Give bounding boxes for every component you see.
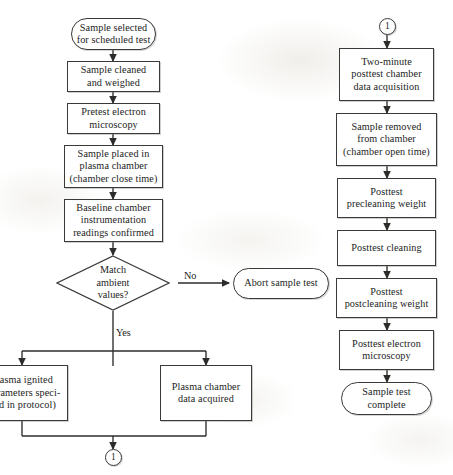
flowchart-canvas: Sample selected for scheduled test Sampl… xyxy=(0,0,453,475)
node-plasma-ignited[interactable]: Plasma ignited (parameters speci- fied i… xyxy=(0,365,68,421)
node-abort-sample-test-label: Abort sample test xyxy=(244,277,318,289)
node-connector-out[interactable]: 1 xyxy=(105,449,122,466)
node-start-label: Sample selected for scheduled test xyxy=(77,22,151,47)
node-pretest-electron-microscopy-label: Pretest electron microscopy xyxy=(81,106,146,131)
node-baseline-readings[interactable]: Baseline chamber instrumentation reading… xyxy=(64,199,163,242)
node-sample-placed[interactable]: Sample placed in plasma chamber (chamber… xyxy=(64,145,163,188)
node-posttest-cleaning[interactable]: Posttest cleaning xyxy=(337,230,436,266)
node-sample-cleaned[interactable]: Sample cleaned and weighed xyxy=(67,61,160,92)
node-sample-cleaned-label: Sample cleaned and weighed xyxy=(81,64,147,89)
node-posttest-cleaning-label: Posttest cleaning xyxy=(351,242,421,254)
node-plasma-chamber-data[interactable]: Plasma chamber data acquired xyxy=(160,365,252,421)
edge-label-no-text: No xyxy=(184,270,196,281)
node-sample-test-complete[interactable]: Sample test complete xyxy=(341,382,432,415)
node-match-ambient-label: Match ambient values? xyxy=(97,264,130,301)
node-posttest-precleaning-weight-label: Posttest precleaning weight xyxy=(347,186,427,211)
node-posttest-postcleaning-weight[interactable]: Posttest postcleaning weight xyxy=(336,278,437,318)
edge-label-yes: Yes xyxy=(116,327,131,338)
node-pretest-electron-microscopy[interactable]: Pretest electron microscopy xyxy=(67,103,160,134)
node-posttest-postcleaning-weight-label: Posttest postcleaning weight xyxy=(345,286,429,311)
node-sample-removed-label: Sample removed from chamber (chamber ope… xyxy=(343,121,430,158)
node-sample-test-complete-label: Sample test complete xyxy=(362,386,410,411)
node-plasma-chamber-data-label: Plasma chamber data acquired xyxy=(172,381,240,406)
node-match-ambient-decision[interactable]: Match ambient values? xyxy=(56,255,170,311)
node-sample-removed[interactable]: Sample removed from chamber (chamber ope… xyxy=(336,113,437,166)
edge-label-yes-text: Yes xyxy=(116,327,131,338)
node-sample-placed-label: Sample placed in plasma chamber (chamber… xyxy=(70,148,158,185)
node-plasma-ignited-label: Plasma ignited (parameters speci- fied i… xyxy=(0,374,60,411)
node-connector-in[interactable]: 1 xyxy=(379,18,396,35)
node-posttest-electron-microscopy-label: Posttest electron microscopy xyxy=(352,338,421,363)
node-connector-out-label: 1 xyxy=(111,453,116,463)
node-baseline-readings-label: Baseline chamber instrumentation reading… xyxy=(73,202,154,239)
node-posttest-electron-microscopy[interactable]: Posttest electron microscopy xyxy=(339,330,434,370)
node-connector-in-label: 1 xyxy=(385,22,390,32)
edge-label-no: No xyxy=(184,270,196,281)
node-two-minute-acquisition[interactable]: Two-minute posttest chamber data acquisi… xyxy=(339,48,434,101)
node-posttest-precleaning-weight[interactable]: Posttest precleaning weight xyxy=(337,178,436,218)
node-start[interactable]: Sample selected for scheduled test xyxy=(71,18,156,50)
node-abort-sample-test[interactable]: Abort sample test xyxy=(233,268,329,299)
node-two-minute-acquisition-label: Two-minute posttest chamber data acquisi… xyxy=(351,56,421,93)
